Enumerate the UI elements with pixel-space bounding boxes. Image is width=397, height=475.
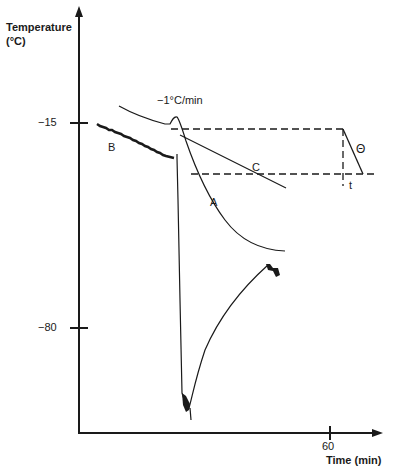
ytick-label-minus80: −80 <box>38 321 57 333</box>
curve-b-min-blob <box>182 393 190 412</box>
y-axis-label-line2: (°C) <box>6 34 72 48</box>
y-axis-arrow <box>75 6 83 17</box>
curve-b-end-blob <box>266 264 280 277</box>
curve-c <box>180 135 286 188</box>
ytick-label-minus15: −15 <box>38 116 57 128</box>
label-theta: Θ <box>356 142 365 156</box>
chart-canvas <box>0 0 397 475</box>
y-axis-label: Temperature (°C) <box>6 20 72 48</box>
curve-a <box>119 106 285 251</box>
dashed-lines <box>171 129 375 186</box>
curve-b-drop <box>177 154 268 408</box>
y-axis-label-line1: Temperature <box>6 20 72 34</box>
label-c: C <box>252 161 260 173</box>
curve-b-tail <box>190 408 191 420</box>
x-axis-label: Time (min) <box>326 454 381 466</box>
rate-annotation: −1°C/min <box>157 94 203 106</box>
label-t: t <box>349 179 352 191</box>
x-axis-arrow <box>372 429 383 437</box>
label-a: A <box>210 196 217 208</box>
label-b: B <box>108 141 115 153</box>
xtick-label-60: 60 <box>322 440 334 452</box>
